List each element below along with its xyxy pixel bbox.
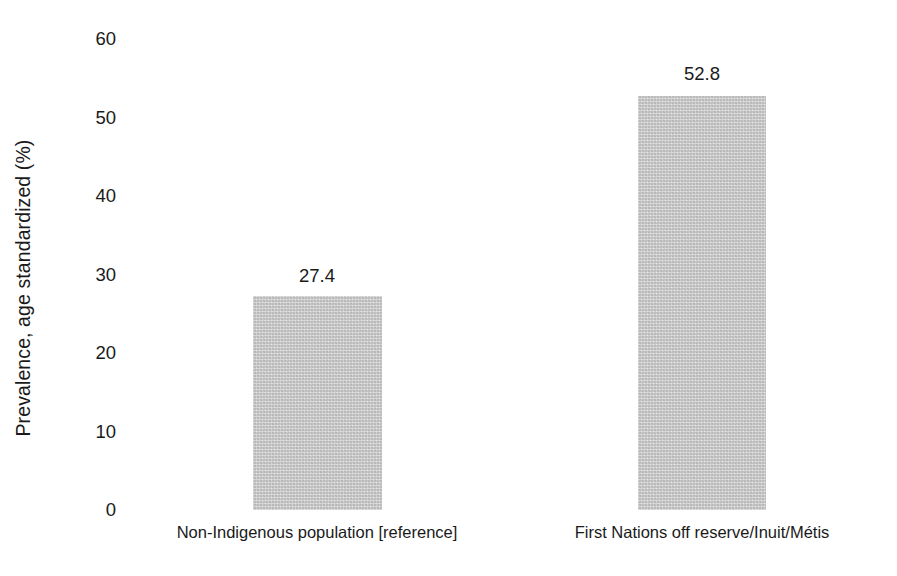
bar-value-label-non-indigenous-population: 27.4 (299, 266, 335, 286)
x-axis-category-label-first-nations-off-reserve-inuit-metis: First Nations off reserve/Inuit/Métis (575, 522, 830, 542)
plot-area: 27.4 Non-Indigenous population [referenc… (0, 0, 897, 576)
bar-chart: Prevalence, age standardized (%) 60 50 4… (0, 0, 897, 576)
bar-first-nations-off-reserve-inuit-metis (638, 96, 766, 510)
bar-non-indigenous-population (253, 296, 382, 510)
x-axis-category-label-non-indigenous-population: Non-Indigenous population [reference] (177, 522, 458, 542)
bar-value-label-first-nations-off-reserve-inuit-metis: 52.8 (684, 64, 720, 84)
